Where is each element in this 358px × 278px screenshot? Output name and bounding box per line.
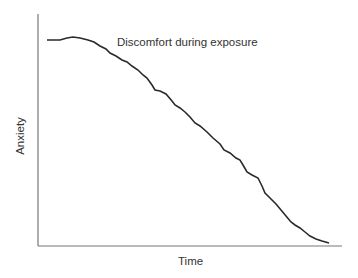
chart: Discomfort during exposure Time Anxiety [0, 0, 358, 278]
curve-annotation: Discomfort during exposure [117, 36, 258, 48]
anxiety-curve [47, 37, 329, 243]
x-axis-label: Time [178, 255, 203, 267]
y-axis-label: Anxiety [14, 117, 26, 155]
